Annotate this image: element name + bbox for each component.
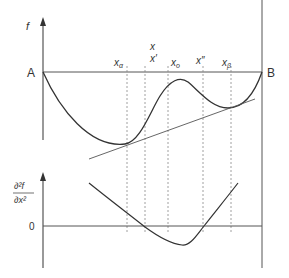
x-double-prime-label: x″: [195, 55, 205, 66]
second-derivative-denominator: ∂x²: [14, 195, 27, 205]
common-tangent: [89, 99, 255, 159]
second-derivative-curve: [89, 183, 238, 245]
f-axis-label: f: [26, 20, 30, 32]
point-A-label: A: [27, 66, 35, 80]
lower-arrow-icon: [40, 172, 46, 181]
x-alpha-label: xα: [113, 57, 124, 69]
x-o-label: xo: [170, 57, 180, 69]
upper-arrow-icon: [40, 17, 46, 26]
dashed-markers: [127, 66, 231, 232]
free-energy-diagram: f A B xα x x′ xo x″ xβ ∂²f ∂x² 0: [0, 0, 289, 278]
second-derivative-numerator: ∂²f: [14, 181, 25, 191]
x-prime-label: x′: [149, 53, 158, 64]
point-B-label: B: [267, 66, 275, 80]
x-label: x: [149, 41, 156, 52]
x-beta-label: xβ: [221, 57, 231, 70]
zero-label: 0: [29, 221, 35, 232]
